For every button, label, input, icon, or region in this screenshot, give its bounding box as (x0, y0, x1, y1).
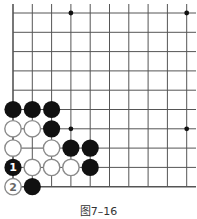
white-stone (43, 159, 59, 175)
go-board: 12 (0, 0, 197, 200)
white-stone (24, 159, 40, 175)
white-stone (5, 140, 21, 156)
black-stone (24, 101, 41, 118)
stone-move-number: 2 (9, 181, 17, 194)
black-stone (62, 140, 79, 157)
white-stone (24, 121, 40, 137)
star-point (184, 11, 189, 16)
black-stone (43, 120, 60, 137)
black-stone (4, 101, 21, 118)
black-stone (43, 101, 60, 118)
black-stone (82, 159, 99, 176)
figure-caption: 图7–16 (0, 202, 197, 218)
white-stone (43, 140, 59, 156)
star-point (69, 126, 74, 131)
white-stone (63, 159, 79, 175)
white-stone (5, 121, 21, 137)
star-point (184, 126, 189, 131)
black-stone (82, 140, 99, 157)
stone-move-number: 1 (9, 161, 17, 174)
star-point (69, 11, 74, 16)
black-stone (24, 178, 41, 195)
